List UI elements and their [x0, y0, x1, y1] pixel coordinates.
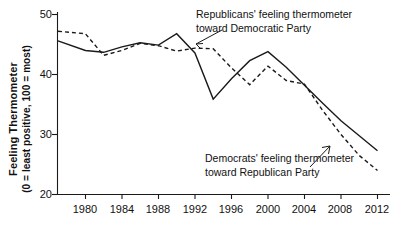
- y-tick-marks: [52, 15, 57, 195]
- series-line-republicans: [58, 34, 378, 151]
- annotation-democrats-leader: [310, 146, 330, 167]
- plot-area: [0, 0, 408, 238]
- feeling-thermometer-chart: Feeling Thermometer (0 = least positive,…: [0, 0, 408, 238]
- annotation-republicans-leader: [196, 30, 222, 49]
